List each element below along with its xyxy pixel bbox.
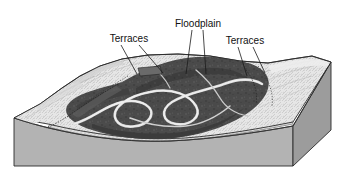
label-terraces-right: Terraces (226, 35, 264, 46)
label-floodplain: Floodplain (175, 18, 221, 29)
block-diagram-svg: Terraces Floodplain Terraces (0, 0, 341, 177)
block-diagram-figure: Terraces Floodplain Terraces (0, 0, 341, 177)
labels-group: Terraces Floodplain Terraces (110, 18, 264, 46)
label-terraces-left: Terraces (110, 33, 148, 44)
